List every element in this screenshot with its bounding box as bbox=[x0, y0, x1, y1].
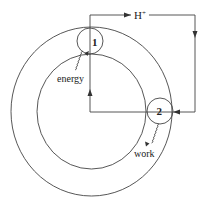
work-wavy-arrow-icon bbox=[152, 124, 160, 143]
arrow-down-icon bbox=[193, 31, 198, 38]
node-2-label: 2 bbox=[157, 105, 163, 117]
energy-wavy-arrow-icon bbox=[75, 51, 83, 70]
proton-cycle-diagram: 1 2 H+ energy work bbox=[0, 0, 209, 208]
work-label: work bbox=[134, 148, 155, 159]
node-1-label: 1 bbox=[92, 36, 98, 48]
outer-membrane-ring bbox=[11, 27, 172, 196]
arrow-right-icon bbox=[124, 13, 131, 18]
inner-membrane-ring bbox=[37, 54, 146, 169]
work-arrowhead-icon bbox=[145, 142, 150, 147]
energy-label: energy bbox=[57, 73, 84, 84]
arrow-up-icon bbox=[88, 89, 93, 96]
arrow-left-icon bbox=[173, 110, 180, 115]
proton-flow-path bbox=[90, 15, 195, 112]
proton-label: H+ bbox=[134, 9, 146, 21]
